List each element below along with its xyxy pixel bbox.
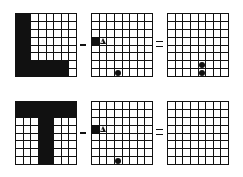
grid-cell bbox=[47, 38, 54, 45]
grid-cell bbox=[16, 134, 23, 141]
grid-cell bbox=[62, 53, 69, 60]
grid-cell bbox=[47, 102, 54, 109]
grid-cell bbox=[191, 157, 198, 164]
grid-cell bbox=[221, 141, 228, 148]
equals-operator bbox=[156, 41, 163, 47]
grid-cell bbox=[130, 134, 137, 141]
grid-cell bbox=[183, 134, 190, 141]
grid-cell bbox=[214, 22, 221, 29]
grid-cell bbox=[214, 149, 221, 156]
grid-cell bbox=[138, 149, 145, 156]
grid-cell bbox=[214, 53, 221, 60]
grid-cell bbox=[24, 69, 31, 76]
grid-cell bbox=[31, 141, 38, 148]
grid-cell bbox=[138, 14, 145, 21]
grid-cell bbox=[183, 110, 190, 117]
grid-cell bbox=[31, 118, 38, 125]
grid-cell bbox=[69, 22, 76, 29]
grid-cell bbox=[199, 38, 206, 45]
grid-cell bbox=[221, 110, 228, 117]
grid-cell bbox=[123, 22, 130, 29]
grid-result bbox=[167, 101, 229, 165]
grid-cell bbox=[47, 30, 54, 37]
grid-cell bbox=[168, 46, 175, 53]
grid-cell bbox=[62, 30, 69, 37]
grid-cell bbox=[39, 118, 46, 125]
grid-cell bbox=[39, 46, 46, 53]
grid-cell bbox=[168, 134, 175, 141]
grid-cell bbox=[69, 141, 76, 148]
grid-cell bbox=[54, 134, 61, 141]
grid-cell bbox=[62, 69, 69, 76]
grid-cell bbox=[16, 157, 23, 164]
grid-cell bbox=[123, 157, 130, 164]
grid-cell bbox=[47, 110, 54, 117]
grid-cell bbox=[183, 102, 190, 109]
grid-cell bbox=[107, 61, 114, 68]
grid-cell bbox=[107, 141, 114, 148]
grid-cell bbox=[69, 38, 76, 45]
grid-cell bbox=[221, 53, 228, 60]
grid-cell bbox=[191, 126, 198, 133]
grid-cell bbox=[100, 110, 107, 117]
grid-cell bbox=[16, 14, 23, 21]
grid-cell bbox=[39, 61, 46, 68]
grid-cell bbox=[47, 141, 54, 148]
grid-cell bbox=[47, 134, 54, 141]
grid-operand bbox=[91, 13, 153, 77]
grid-cell bbox=[100, 69, 107, 76]
grid-cell bbox=[54, 30, 61, 37]
grid-cell bbox=[191, 22, 198, 29]
grid-cell bbox=[130, 141, 137, 148]
grid-cell bbox=[62, 61, 69, 68]
grid-cell bbox=[69, 102, 76, 109]
grid-cell bbox=[54, 69, 61, 76]
grid-cell bbox=[54, 61, 61, 68]
grid-cell bbox=[115, 141, 122, 148]
grid-cell bbox=[115, 38, 122, 45]
grid-cell bbox=[191, 38, 198, 45]
grid-cell bbox=[214, 110, 221, 117]
grid-cell bbox=[176, 22, 183, 29]
grid-cell bbox=[138, 46, 145, 53]
grid-cell bbox=[145, 30, 152, 37]
grid-cell bbox=[183, 69, 190, 76]
grid-cell bbox=[16, 149, 23, 156]
grid-cell bbox=[138, 38, 145, 45]
grid-cell bbox=[191, 46, 198, 53]
grid-cell bbox=[138, 102, 145, 109]
grid-cell bbox=[115, 69, 122, 76]
grid-cell bbox=[191, 30, 198, 37]
grid-cell bbox=[62, 118, 69, 125]
grid-cell bbox=[130, 110, 137, 117]
grid-cell bbox=[138, 22, 145, 29]
grid-cell bbox=[92, 46, 99, 53]
grid-cell bbox=[123, 61, 130, 68]
minus-operator bbox=[80, 132, 86, 134]
grid-cell bbox=[191, 118, 198, 125]
grid-cell bbox=[39, 30, 46, 37]
grid-cell bbox=[16, 110, 23, 117]
grid-cell bbox=[138, 69, 145, 76]
grid-cell bbox=[69, 46, 76, 53]
grid-cell bbox=[54, 110, 61, 117]
grid-cell bbox=[123, 134, 130, 141]
grid-cell bbox=[221, 149, 228, 156]
grid-cell bbox=[47, 69, 54, 76]
grid-cell bbox=[92, 118, 99, 125]
grid-cell bbox=[145, 157, 152, 164]
grid-cell bbox=[199, 141, 206, 148]
grid-cell bbox=[31, 149, 38, 156]
grid-cell bbox=[123, 46, 130, 53]
grid-cell bbox=[221, 134, 228, 141]
grid-cell bbox=[39, 149, 46, 156]
grid-cell bbox=[221, 61, 228, 68]
grid-cell bbox=[214, 126, 221, 133]
grid-cell bbox=[176, 61, 183, 68]
grid-cell bbox=[115, 126, 122, 133]
grid-cell bbox=[145, 126, 152, 133]
grid-cell bbox=[145, 53, 152, 60]
grid-cell bbox=[47, 53, 54, 60]
grid-cell bbox=[168, 61, 175, 68]
grid-L-shape bbox=[15, 13, 77, 77]
